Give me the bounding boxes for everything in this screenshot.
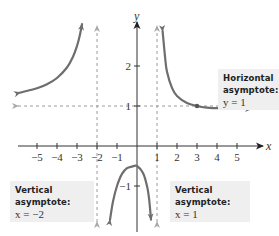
x-tick-label: 2 — [174, 151, 180, 163]
x-tick-label: −3 — [71, 151, 83, 163]
callout-title: Horizontal asymptote: — [223, 72, 278, 96]
y-axis-label: y — [133, 9, 140, 23]
x-tick-label: −5 — [31, 151, 43, 163]
middle-branch-curve — [110, 166, 151, 220]
x-tick-label: 1 — [154, 151, 160, 163]
y-tick-label: 1 — [126, 100, 132, 112]
x-tick-label: 4 — [214, 151, 220, 163]
horizontal-asymptote-callout: Horizontal asymptote: y = 1 — [218, 69, 279, 110]
callout-title: Vertical asymptote: — [175, 184, 245, 208]
x-tick-label: −1 — [111, 151, 123, 163]
x-tick-label: 3 — [194, 151, 200, 163]
axis-ticks: −5−4−3−2−11234521−1 — [31, 60, 240, 192]
x-tick-label: −2 — [91, 151, 103, 163]
callout-title: Vertical asymptote: — [15, 184, 89, 208]
callout-equation: y = 1 — [223, 96, 278, 108]
x-tick-label: 5 — [234, 151, 240, 163]
vertical-asymptote-left-callout: Vertical asymptote: x = −2 — [10, 181, 94, 222]
x-tick-label: −4 — [51, 151, 63, 163]
y-tick-label: 2 — [126, 60, 132, 72]
asymptote-crossing-point — [195, 104, 199, 108]
callout-equation: x = 1 — [175, 208, 245, 220]
vertical-asymptote-right-callout: Vertical asymptote: x = 1 — [170, 181, 250, 222]
callout-equation: x = −2 — [15, 208, 89, 220]
y-tick-label: −1 — [119, 180, 131, 192]
left-branch-curve — [20, 24, 82, 92]
x-axis-label: x — [265, 139, 272, 153]
